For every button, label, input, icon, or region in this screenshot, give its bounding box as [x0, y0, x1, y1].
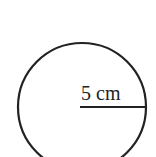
radius-label: 5 cm — [81, 82, 121, 104]
circle-diagram: 5 cm — [0, 0, 156, 157]
